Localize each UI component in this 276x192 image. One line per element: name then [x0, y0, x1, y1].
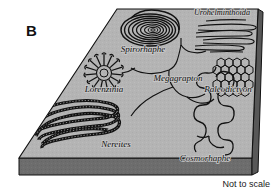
label-paleodictyon: Paleodictyon [203, 84, 252, 94]
label-cosmorhaphe: Cosmorhaphe [180, 153, 230, 163]
label-lorenzinia: Lorenzinia [84, 84, 124, 94]
scale-caption: Not to scale [222, 179, 270, 189]
label-spirorhaphe: Spirorhaphe [121, 44, 166, 54]
slab-illustration: Spirorhaphe Urohelminthoida Lorenzinia M… [0, 0, 276, 192]
label-urohelminthoida: Urohelminthoida [194, 8, 250, 17]
label-nereites: Nereites [100, 139, 131, 149]
trace-fossil-block-diagram: B [0, 0, 276, 192]
label-megagrapton: Megagrapton [153, 73, 203, 83]
panel-letter: B [26, 22, 37, 39]
